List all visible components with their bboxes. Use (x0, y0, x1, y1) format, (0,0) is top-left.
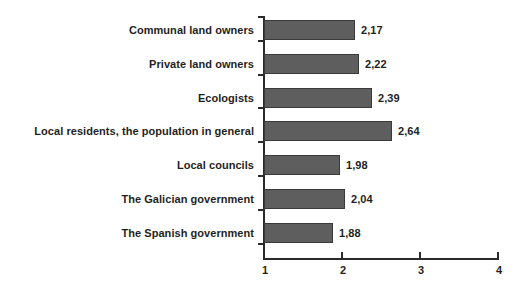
bar-value-label: 1,98 (346, 159, 368, 171)
category-label: The Galician government (121, 193, 254, 205)
value-axis-tick-label: 4 (487, 264, 511, 276)
value-axis-tick (263, 252, 265, 259)
bar-value-label: 1,88 (339, 227, 361, 239)
category-axis-top-cap (258, 16, 265, 18)
bar (264, 88, 372, 108)
category-label: Ecologists (198, 92, 254, 104)
bar (264, 189, 345, 209)
bar-value-label: 2,39 (378, 92, 400, 104)
bar (264, 223, 333, 243)
bar (264, 155, 340, 175)
category-axis-tick (258, 141, 264, 143)
category-label: The Spanish government (121, 227, 254, 239)
value-axis-tick-label: 2 (331, 264, 355, 276)
plot-area: 1234 2,172,222,392,641,982,041,88 Commun… (0, 0, 520, 291)
bar (264, 54, 359, 74)
category-axis-tick (258, 243, 264, 245)
category-axis-tick (258, 74, 264, 76)
bar (264, 121, 392, 141)
value-axis-tick (341, 252, 343, 259)
category-axis-tick (258, 40, 264, 42)
value-axis-tick (497, 252, 499, 259)
bar-value-label: 2,64 (398, 125, 420, 137)
bar (264, 20, 355, 40)
category-axis-tick (258, 175, 264, 177)
bar-value-label: 2,22 (365, 58, 387, 70)
bar-value-label: 2,04 (351, 193, 373, 205)
value-axis-tick-label: 1 (253, 264, 277, 276)
bar-chart: 1234 2,172,222,392,641,982,041,88 Commun… (0, 0, 520, 291)
category-label: Private land owners (149, 58, 254, 70)
value-axis-tick-label: 3 (409, 264, 433, 276)
category-label: Local residents, the population in gener… (34, 125, 254, 137)
category-label: Communal land owners (129, 24, 254, 36)
value-axis-line (263, 258, 499, 260)
category-label: Local councils (177, 159, 254, 171)
value-axis-tick (419, 252, 421, 259)
bar-value-label: 2,17 (361, 24, 383, 36)
category-axis-tick (258, 209, 264, 211)
